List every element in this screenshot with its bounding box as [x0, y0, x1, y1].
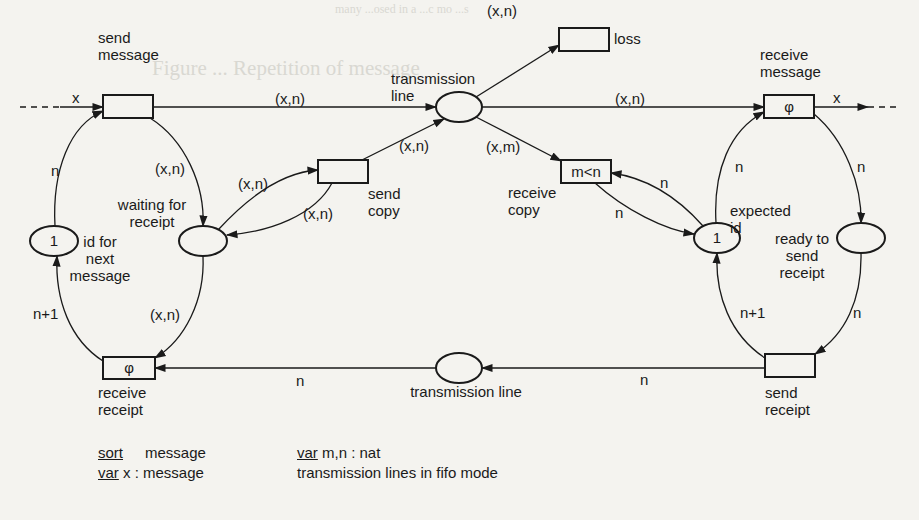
arc-expected-to-receive-copy: [611, 173, 703, 226]
place-token: 1: [50, 232, 58, 249]
place-ellipse: [179, 226, 227, 256]
transition-send-copy: [318, 160, 368, 183]
transition-receive-receipt: φ: [103, 357, 155, 379]
sort-value: message: [145, 444, 206, 461]
place-transmission-line-bottom: [436, 353, 482, 383]
place-ellipse: [436, 92, 482, 122]
arc-inscription: (x,n): [615, 90, 645, 107]
transition-receive-copy: m<n: [561, 160, 611, 183]
fifo-note: transmission lines in fifo mode: [297, 464, 498, 481]
arc-inscription: x: [833, 89, 841, 106]
arc-id-to-send: [55, 111, 103, 226]
arc-inscription: (x,n): [275, 90, 305, 107]
keyword-var: var: [297, 444, 318, 461]
arc-receive-message-to-ready: [814, 114, 861, 223]
arc-inscription: (x,n): [487, 2, 517, 19]
arc-inscription: (x,n): [399, 137, 429, 154]
arc-inscription: (x,m): [486, 138, 520, 155]
arc-inscription: n: [296, 372, 304, 389]
arc-inscription: x: [72, 89, 80, 106]
arc-inscription: n: [853, 304, 861, 321]
arc-receive-copy-to-expected: [595, 183, 694, 234]
arc-inscription: n: [660, 174, 668, 191]
transition-send-message: [103, 95, 153, 118]
declaration-var-x: var x : message: [98, 463, 204, 483]
node-label-transmission-line-bottom: transmission line: [410, 383, 522, 400]
arc-inscription: (x,n): [150, 306, 180, 323]
place-ellipse: [436, 353, 482, 383]
arc-inscription: (x,n): [155, 160, 185, 177]
place-waiting-for-receipt: [179, 226, 227, 256]
node-label-loss: loss: [614, 30, 641, 47]
arc-inscription: n: [735, 158, 743, 175]
transition-guard: φ: [784, 98, 794, 115]
place-ellipse: [837, 223, 885, 253]
declaration-var-mn: var m,n : nat: [297, 443, 380, 463]
node-label-send-copy: sendcopy: [368, 185, 401, 219]
arc-inscription: n: [615, 204, 623, 221]
places: 11: [30, 92, 885, 383]
transition-loss: [559, 28, 609, 51]
node-label-receive-message: receivemessage: [760, 46, 821, 80]
var-mn-value: m,n : nat: [322, 444, 380, 461]
node-label-receive-copy: receivecopy: [508, 184, 556, 218]
place-ready-to-send-receipt: [837, 223, 885, 253]
petri-net-diagram: φm<nφ 11 x(x,n)(x,n)(x,n)xn(x,n)(x,n)(x,…: [0, 0, 919, 520]
arc-line-to-loss: [476, 45, 559, 97]
transition-receive-message: φ: [764, 95, 814, 118]
node-label-send-message: sendmessage: [98, 29, 159, 63]
keyword-var: var: [98, 464, 119, 481]
node-label-waiting-for-receipt: waiting forreceipt: [117, 196, 186, 230]
transition-box: [559, 28, 609, 51]
transition-guard: φ: [124, 359, 134, 376]
place-id-for-next-message: 1: [30, 226, 78, 256]
arc-inscription: (x,n): [238, 175, 268, 192]
arc-inscription: n: [640, 371, 648, 388]
place-token: 1: [713, 229, 721, 246]
keyword-sort: sort: [98, 444, 123, 461]
declaration-sort: sortmessage: [98, 443, 206, 463]
node-label-ready-to-send-receipt: ready tosendreceipt: [775, 230, 829, 281]
transition-box: [318, 160, 368, 183]
arc-inscription: n+1: [740, 304, 765, 321]
node-label-receive-receipt: receivereceipt: [98, 384, 146, 418]
arc-inscription: n+1: [33, 305, 58, 322]
transition-send-receipt: [765, 354, 815, 377]
arc-inscription: n: [51, 162, 59, 179]
transition-guard: m<n: [571, 163, 601, 180]
place-transmission-line-top: [436, 92, 482, 122]
var-x-value: x : message: [123, 464, 204, 481]
declaration-fifo-note: transmission lines in fifo mode: [297, 463, 498, 483]
node-label-send-receipt: sendreceipt: [765, 384, 811, 418]
transition-box: [765, 354, 815, 377]
arc-inscription: (x,n): [303, 205, 333, 222]
transition-box: [103, 95, 153, 118]
arc-inscription: n: [857, 158, 865, 175]
